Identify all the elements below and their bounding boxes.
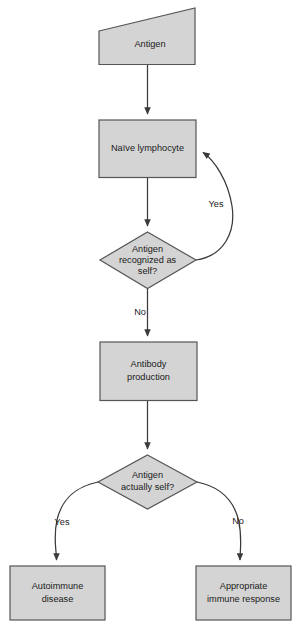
node-naive-lymphocyte: Naïve lymphocyte: [99, 120, 196, 178]
edge-label-decision-self-no: No: [134, 307, 146, 317]
antibody-production-label-line-2: production: [127, 372, 170, 382]
antibody-production-label-line-1: Antibody: [131, 359, 167, 369]
decision-actually-self-label-line-2: actually self?: [121, 482, 174, 492]
node-decision-actually-self: Antigen actually self?: [98, 455, 197, 509]
decision-recognized-self-label-line-3: self?: [138, 266, 157, 276]
node-decision-recognized-self: Antigen recognized as self?: [100, 232, 196, 289]
node-antibody-production: Antibody production: [100, 342, 197, 401]
node-appropriate-immune-response: Appropriate immune response: [196, 566, 291, 620]
node-autoimmune-disease: Autoimmune disease: [10, 566, 105, 620]
antigen-label: Antigen: [134, 39, 165, 49]
flowchart-diagram: Antigen Naïve lymphocyte Antigen recogni…: [0, 0, 297, 633]
node-antigen: Antigen: [99, 8, 195, 65]
decision-actually-self-label-line-1: Antigen: [132, 470, 163, 480]
autoimmune-disease-label-line-1: Autoimmune: [32, 581, 84, 591]
autoimmune-disease-label-line-2: disease: [42, 594, 74, 604]
edge-label-decision-actually-self-no: No: [232, 516, 244, 526]
edge-label-decision-actually-self-yes: Yes: [55, 517, 70, 527]
edge-label-decision-self-yes: Yes: [209, 199, 224, 209]
decision-recognized-self-label-line-2: recognized as: [119, 255, 177, 265]
decision-recognized-self-label-line-1: Antigen: [132, 244, 163, 254]
appropriate-immune-response-label-line-1: Appropriate: [220, 581, 268, 591]
appropriate-immune-response-label-line-2: immune response: [207, 594, 280, 604]
flowchart-canvas: Antigen Naïve lymphocyte Antigen recogni…: [0, 0, 297, 633]
naive-lymphocyte-label: Naïve lymphocyte: [111, 143, 184, 153]
antigen-shape: [99, 8, 195, 65]
